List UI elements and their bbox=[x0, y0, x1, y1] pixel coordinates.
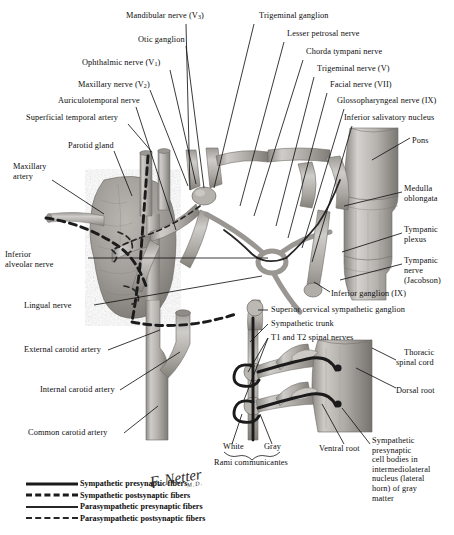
label-thoracic-spinal-cord-line1: Thoracic bbox=[404, 348, 434, 358]
parasympathetic-presynaptic-line-icon bbox=[22, 501, 80, 513]
label-medulla-line2: oblongata bbox=[404, 194, 438, 204]
label-medulla-line1: Medulla bbox=[404, 184, 432, 194]
label-rami-communicantes: Rami communicantes bbox=[214, 458, 288, 468]
label-inferior-ganglion: Inferior ganglion (IX) bbox=[331, 289, 406, 299]
legend-item-parasympathetic-presynaptic: Parasympathetic presynaptic fibers bbox=[22, 501, 232, 513]
label-dorsal-root: Dorsal root bbox=[396, 386, 435, 396]
label-t1-t2-spinal-nerves: T1 and T2 spinal nerves bbox=[271, 333, 353, 343]
label-chorda-tympani-nerve: Chorda tympani nerve bbox=[306, 47, 382, 57]
label-external-carotid-artery: External carotid artery bbox=[24, 345, 101, 355]
parasympathetic-postsynaptic-line-icon bbox=[22, 513, 80, 525]
label-mandibular-nerve: Mandibular nerve (V3) bbox=[126, 11, 204, 23]
label-lesser-petrosal-nerve: Lesser petrosal nerve bbox=[287, 29, 360, 39]
label-trigeminal-ganglion: Trigeminal ganglion bbox=[259, 11, 329, 21]
legend-label: Sympathetic postsynaptic fibers bbox=[80, 490, 190, 502]
label-ophthalmic-nerve: Ophthalmic nerve (V1) bbox=[82, 58, 160, 70]
label-glossopharyngeal-nerve: Glossopharyngeal nerve (IX) bbox=[337, 96, 436, 106]
label-ventral-root: Ventral root bbox=[319, 444, 360, 454]
legend-item-parasympathetic-postsynaptic: Parasympathetic postsynaptic fibers bbox=[22, 513, 232, 525]
label-otic-ganglion: Otic ganglion bbox=[138, 35, 185, 45]
sympathetic-postsynaptic-line-icon bbox=[22, 490, 80, 502]
legend-label: Parasympathetic presynaptic fibers bbox=[80, 501, 203, 513]
legend-item-sympathetic-postsynaptic: Sympathetic postsynaptic fibers bbox=[22, 490, 232, 502]
label-tympanic-plexus-line1: Tympanic bbox=[404, 225, 438, 235]
label-lingual-nerve: Lingual nerve bbox=[24, 301, 72, 311]
label-maxillary-nerve: Maxillary nerve (V2) bbox=[78, 80, 150, 92]
label-internal-carotid-artery: Internal carotid artery bbox=[40, 385, 115, 395]
label-superior-cervical-sympathetic-ganglion: Superior cervical sympathetic ganglion bbox=[271, 305, 405, 315]
label-tympanic-nerve-line2: nerve bbox=[404, 266, 423, 276]
label-pons: Pons bbox=[412, 136, 429, 146]
label-inferior-alveolar-nerve-line1: Inferior bbox=[5, 250, 31, 260]
label-maxillary-artery-line2: artery bbox=[13, 172, 33, 182]
brainstem-group bbox=[344, 128, 398, 300]
label-facial-nerve: Facial nerve (VII) bbox=[330, 80, 392, 90]
label-superficial-temporal-artery: Superficial temporal artery bbox=[26, 113, 118, 123]
label-auriculotemporal-nerve: Auriculotemporal nerve bbox=[58, 96, 140, 106]
label-white-ramus: White bbox=[223, 442, 244, 452]
label-inferior-salivatory-nucleus: Inferior salivatory nucleus bbox=[344, 113, 434, 123]
label-thoracic-spinal-cord-line2: spinal cord bbox=[396, 358, 434, 368]
label-tympanic-nerve-line1: Tympanic bbox=[404, 256, 438, 266]
legend-label: Parasympathetic postsynaptic fibers bbox=[80, 513, 205, 525]
label-gray-ramus: Gray bbox=[264, 442, 281, 452]
label-common-carotid-artery: Common carotid artery bbox=[28, 428, 108, 438]
label-inferior-alveolar-nerve-line2: alveolar nerve bbox=[5, 260, 54, 270]
label-sympathetic-trunk: Sympathetic trunk bbox=[271, 319, 334, 329]
label-parotid-gland: Parotid gland bbox=[68, 141, 114, 151]
label-tympanic-plexus-line2: plexus bbox=[404, 235, 426, 245]
label-maxillary-artery-line1: Maxillary bbox=[13, 162, 47, 172]
sympathetic-presynaptic-line-icon bbox=[22, 478, 80, 490]
label-trigeminal-nerve: Trigeminal nerve (V) bbox=[317, 64, 390, 74]
label-sympathetic-presynaptic-cell-bodies: Sympathetic presynaptic cell bodies in i… bbox=[372, 436, 452, 503]
label-tympanic-nerve-line3: (Jacobson) bbox=[404, 276, 441, 286]
